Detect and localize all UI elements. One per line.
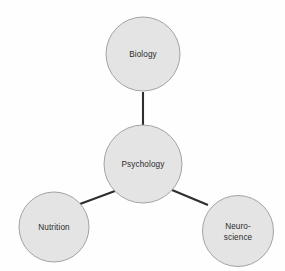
node-neuroscience-label-line1: Neuro- [225,222,251,231]
node-biology[interactable]: Biology [106,17,180,91]
node-neuroscience-label-line2: science [224,233,253,242]
node-psychology[interactable]: Psychology [104,125,182,203]
node-neuroscience-circle [203,196,274,267]
node-biology-label: Biology [129,50,157,59]
concept-map-diagram: Biology Psychology Nutrition Neuro- scie… [0,0,285,271]
node-neuroscience[interactable]: Neuro- science [203,196,274,267]
diagram-svg-canvas: Biology Psychology Nutrition Neuro- scie… [0,0,285,271]
edge-psychology-neuroscience [172,190,208,205]
edge-psychology-nutrition [80,191,115,204]
node-nutrition[interactable]: Nutrition [19,192,89,262]
node-psychology-label: Psychology [122,160,166,169]
node-nutrition-label: Nutrition [38,223,70,232]
